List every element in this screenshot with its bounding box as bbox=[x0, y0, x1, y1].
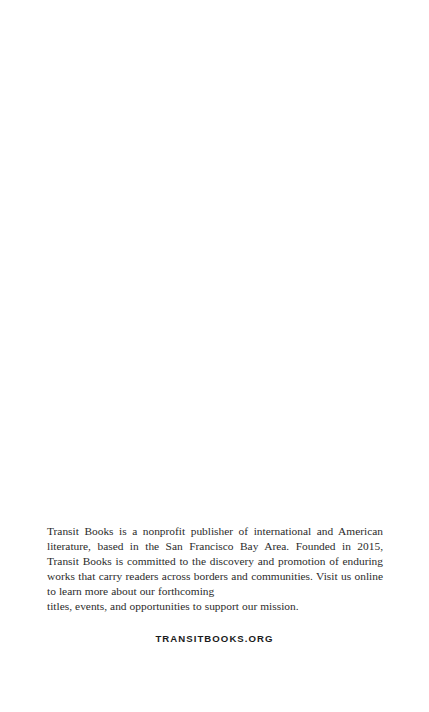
publisher-description-body: Transit Books is a nonprofit publisher o… bbox=[47, 525, 383, 597]
publisher-url-container: TRANSITBOOKS.ORG bbox=[0, 628, 429, 646]
publisher-website-link[interactable]: TRANSITBOOKS.ORG bbox=[155, 633, 273, 644]
publisher-description-paragraph: Transit Books is a nonprofit publisher o… bbox=[47, 524, 383, 615]
blank-lower-page-area bbox=[0, 648, 429, 712]
colophon-text-block: Transit Books is a nonprofit publisher o… bbox=[47, 524, 383, 615]
book-colophon-page: Transit Books is a nonprofit publisher o… bbox=[0, 0, 429, 712]
publisher-description-last-line: titles, events, and opportunities to sup… bbox=[47, 599, 383, 614]
blank-upper-page-area bbox=[0, 0, 429, 520]
